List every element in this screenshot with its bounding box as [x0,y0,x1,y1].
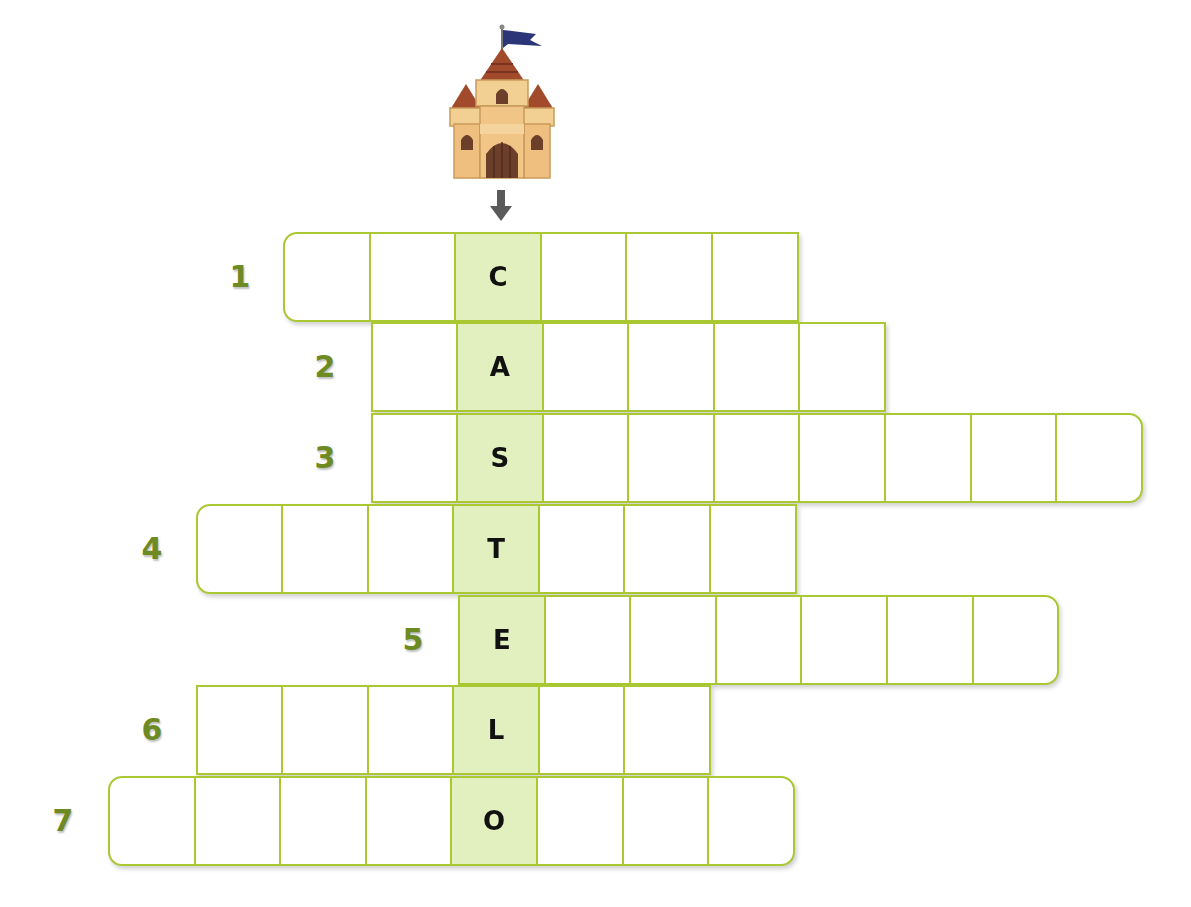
letter-cell[interactable] [709,504,797,594]
letter-cell[interactable] [196,504,284,594]
letter-cell[interactable] [625,232,713,322]
letter-cell[interactable] [542,413,630,503]
word-row-4: T [196,504,797,594]
row-number-7: 7 [43,801,83,841]
letter-cell[interactable] [196,685,284,775]
letter-cell[interactable] [544,595,632,685]
letter-cell[interactable] [194,776,282,866]
letter-cell[interactable] [627,413,715,503]
letter-cell[interactable] [711,232,799,322]
row-number-3: 3 [305,438,345,478]
letter-cell[interactable] [542,322,630,412]
word-row-7: O [108,776,795,866]
letter-cell[interactable] [279,776,367,866]
key-letter-cell[interactable]: A [456,322,544,412]
word-row-1: C [283,232,799,322]
word-row-6: L [196,685,712,775]
letter-cell[interactable] [623,504,711,594]
key-letter-cell[interactable]: C [454,232,542,322]
letter-cell[interactable] [886,595,974,685]
row-number-4: 4 [132,529,172,569]
letter-cell[interactable] [365,776,453,866]
letter-cell[interactable] [627,322,715,412]
word-row-2: A [371,322,887,412]
key-letter-cell[interactable]: O [450,776,538,866]
letter-cell[interactable] [972,595,1060,685]
letter-cell[interactable] [371,413,459,503]
letter-cell[interactable] [800,595,888,685]
key-letter-cell[interactable]: S [456,413,544,503]
key-letter-cell[interactable]: T [452,504,540,594]
letter-cell[interactable] [281,685,369,775]
letter-cell[interactable] [540,232,628,322]
row-number-6: 6 [132,710,172,750]
word-row-5: E [458,595,1059,685]
row-number-5: 5 [393,620,433,660]
letter-cell[interactable] [713,322,801,412]
letter-cell[interactable] [281,504,369,594]
letter-cell[interactable] [536,776,624,866]
key-letter-cell[interactable]: E [458,595,546,685]
letter-cell[interactable] [970,413,1058,503]
letter-cell[interactable] [367,504,455,594]
letter-cell[interactable] [629,595,717,685]
letter-cell[interactable] [715,595,803,685]
letter-cell[interactable] [1055,413,1143,503]
letter-cell[interactable] [798,322,886,412]
letter-cell[interactable] [371,322,459,412]
letter-cell[interactable] [367,685,455,775]
letter-cell[interactable] [538,504,626,594]
letter-cell[interactable] [538,685,626,775]
castle-icon [446,22,558,182]
letter-cell[interactable] [884,413,972,503]
letter-cell[interactable] [707,776,795,866]
row-number-2: 2 [305,347,345,387]
word-row-3: S [371,413,1143,503]
letter-cell[interactable] [798,413,886,503]
letter-cell[interactable] [713,413,801,503]
letter-cell[interactable] [369,232,457,322]
down-arrow-icon [490,190,512,222]
letter-cell[interactable] [622,776,710,866]
letter-cell[interactable] [108,776,196,866]
letter-cell[interactable] [623,685,711,775]
key-letter-cell[interactable]: L [452,685,540,775]
row-number-1: 1 [220,257,260,297]
letter-cell[interactable] [283,232,371,322]
